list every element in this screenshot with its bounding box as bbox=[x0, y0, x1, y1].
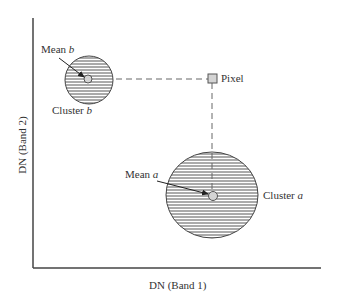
cluster-a-label: Cluster a bbox=[263, 189, 304, 201]
y-axis-label: DN (Band 2) bbox=[16, 116, 29, 174]
pixel-square bbox=[208, 74, 217, 83]
cluster-diagram: DN (Band 1) DN (Band 2) Pixel Mean b Clu… bbox=[0, 0, 337, 298]
mean-b-point bbox=[84, 75, 92, 83]
diagram-canvas: DN (Band 1) DN (Band 2) Pixel Mean b Clu… bbox=[0, 0, 337, 298]
mean-b-label: Mean b bbox=[41, 43, 75, 55]
x-axis-label: DN (Band 1) bbox=[149, 279, 207, 292]
mean-a-label: Mean a bbox=[125, 168, 159, 180]
cluster-b-label: Cluster b bbox=[52, 104, 93, 116]
mean-a-point bbox=[209, 192, 218, 201]
pixel-label: Pixel bbox=[221, 72, 244, 84]
